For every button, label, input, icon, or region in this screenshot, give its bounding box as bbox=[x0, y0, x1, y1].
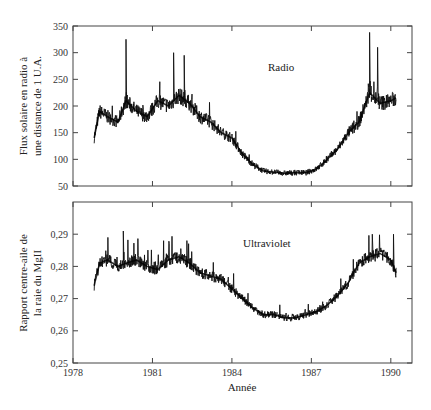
y-tick-label: 150 bbox=[53, 127, 68, 138]
x-tick-label: 1978 bbox=[63, 367, 83, 378]
y-tick-label: 0,28 bbox=[51, 261, 69, 272]
y-tick-label: 50 bbox=[58, 181, 68, 192]
uv-y-axis-title-line1: Rapport centre-aile de bbox=[17, 234, 29, 332]
uv-y-axis: 0,290,280,270,260,25 bbox=[51, 229, 413, 369]
uv-y-axis-title-line2: la raie du MgII bbox=[31, 250, 43, 317]
x-tick-label: 1981 bbox=[142, 367, 162, 378]
radio-y-axis-title-line1: Flux solaire en radio à bbox=[17, 57, 29, 155]
x-tick-label: 1990 bbox=[381, 367, 401, 378]
y-tick-label: 100 bbox=[53, 154, 68, 165]
y-tick-label: 0,26 bbox=[51, 325, 69, 336]
radio-panel-label: Radio bbox=[268, 61, 295, 73]
y-tick-label: 200 bbox=[53, 101, 68, 112]
solar-activity-chart: 35030025020015010050 0,290,280,270,260,2… bbox=[0, 0, 431, 410]
y-tick-label: 300 bbox=[53, 47, 68, 58]
x-tick-label: 1987 bbox=[301, 367, 321, 378]
uv-panel-label: Ultraviolet bbox=[243, 237, 291, 249]
uv-plot-frame bbox=[73, 202, 412, 363]
x-axis-title: Année bbox=[228, 381, 257, 393]
y-tick-label: 250 bbox=[53, 74, 68, 85]
radio-y-axis: 35030025020015010050 bbox=[53, 21, 412, 192]
y-tick-label: 0,27 bbox=[51, 293, 69, 304]
y-tick-label: 350 bbox=[53, 21, 68, 32]
x-tick-label: 1984 bbox=[222, 367, 242, 378]
radio-y-axis-title-line2: une distance de 1 U.A. bbox=[31, 56, 43, 156]
y-tick-label: 0,29 bbox=[51, 229, 69, 240]
radio-data-series bbox=[94, 32, 396, 175]
